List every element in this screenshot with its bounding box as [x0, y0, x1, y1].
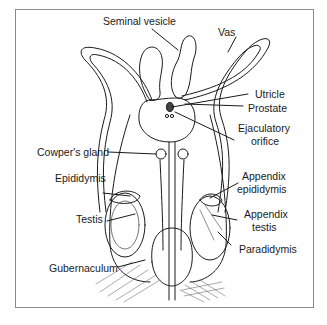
label-appendix-testis-line1: Appendix: [244, 208, 288, 220]
label-appendix-epididymis-line1: Appendix: [242, 170, 286, 182]
label-appendix-epididymis-line2: epididymis: [237, 183, 287, 195]
left-cowpers-gland: [156, 149, 166, 159]
label-cowpers-gland: Cowper's gland: [37, 146, 109, 158]
left-vas-inner: [90, 54, 147, 212]
label-vas: Vas: [218, 26, 235, 38]
label-seminal-vesicle: Seminal vesicle: [103, 15, 176, 27]
right-seminal-vesicle: [171, 36, 196, 98]
label-utricle: Utricle: [255, 88, 285, 100]
anatomy-illustration: [0, 0, 327, 325]
label-ejaculatory-orifice-line2: orifice: [251, 135, 279, 147]
label-paradidymis: Paradidymis: [239, 243, 297, 255]
label-testis: Testis: [76, 213, 103, 225]
left-fold: [110, 115, 150, 282]
label-gubernaculum: Gubernaculum: [49, 262, 118, 274]
left-vas-outer: [81, 47, 152, 212]
label-appendix-testis-line2: testis: [252, 221, 277, 233]
label-ejaculatory-orifice-line1: Ejaculatory: [238, 122, 290, 134]
right-cowpers-gland: [178, 149, 188, 159]
label-epididymis: Epididymis: [55, 172, 106, 184]
label-prostate: Prostate: [248, 102, 287, 114]
